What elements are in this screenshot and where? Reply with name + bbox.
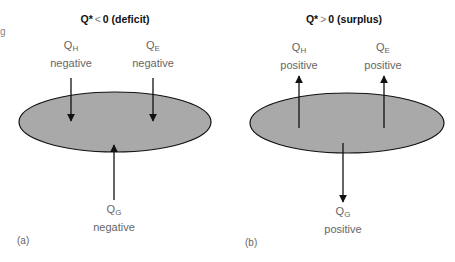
- qg-sign: positive: [324, 223, 361, 235]
- surface-ellipse-a: [19, 92, 211, 152]
- qg-subscript: G: [344, 210, 350, 219]
- qh-sign: positive: [280, 59, 317, 71]
- qe-label-a: QE negative: [132, 38, 174, 71]
- qh-sign: negative: [50, 57, 92, 69]
- qh-subscript: H: [300, 46, 306, 55]
- title-lhs: Q*: [306, 13, 318, 25]
- qe-sign: positive: [364, 59, 401, 71]
- qg-sign: negative: [93, 221, 135, 233]
- qe-symbol: Q: [376, 41, 385, 53]
- qh-label-b: QH positive: [280, 40, 317, 73]
- qe-subscript: E: [155, 44, 160, 53]
- qh-label-a: QH negative: [50, 38, 92, 71]
- qg-symbol: Q: [107, 203, 116, 215]
- qg-label-b: QG positive: [324, 204, 361, 237]
- qg-symbol: Q: [336, 205, 345, 217]
- title-relation: <: [93, 13, 103, 25]
- qh-subscript: H: [72, 44, 78, 53]
- qg-subscript: G: [115, 208, 121, 217]
- title-rhs: 0 (surplus): [328, 13, 382, 25]
- title-relation: >: [318, 13, 328, 25]
- surface-ellipse-b: [250, 93, 444, 153]
- qh-symbol: Q: [292, 41, 301, 53]
- qe-subscript: E: [385, 46, 390, 55]
- panel-a-title: Q*<0 (deficit): [80, 13, 149, 25]
- panel-label-a: (a): [17, 235, 29, 246]
- qg-label-a: QG negative: [93, 202, 135, 235]
- title-lhs: Q*: [80, 13, 92, 25]
- qh-symbol: Q: [64, 39, 73, 51]
- title-rhs: 0 (deficit): [103, 13, 150, 25]
- qe-label-b: QE positive: [364, 40, 401, 73]
- panel-label-b: (b): [245, 237, 257, 248]
- qe-sign: negative: [132, 57, 174, 69]
- panel-b-title: Q*>0 (surplus): [306, 13, 382, 25]
